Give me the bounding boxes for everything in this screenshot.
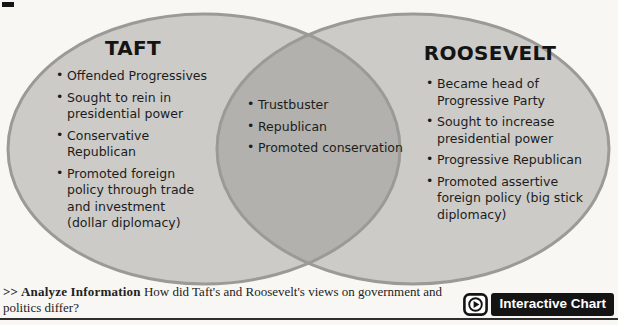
shared-list: Trustbuster Republican Promoted conserva… <box>247 97 422 162</box>
shared-item: Promoted conservation <box>247 140 422 157</box>
bottom-rule <box>0 318 618 320</box>
interactive-chart-label: Interactive Chart <box>491 293 614 316</box>
taft-item: Promoted foreign policy through trade an… <box>56 166 208 232</box>
caption-label: >> Analyze Information <box>3 284 141 299</box>
play-icon <box>463 293 488 316</box>
shared-item: Republican <box>247 119 422 136</box>
roosevelt-item: Sought to increase presidential power <box>426 114 584 147</box>
taft-list: Offended Progressives Sought to rein in … <box>56 68 208 237</box>
roosevelt-list: Became head of Progressive Party Sought … <box>426 76 584 228</box>
shared-item: Trustbuster <box>247 97 422 114</box>
analyze-information-caption: >> Analyze Information How did Taft's an… <box>3 284 475 315</box>
roosevelt-item: Promoted assertive foreign policy (big s… <box>426 174 584 224</box>
roosevelt-item: Progressive Republican <box>426 152 584 169</box>
taft-item: Offended Progressives <box>56 68 208 85</box>
taft-item: Sought to rein in presidential power <box>56 90 208 123</box>
taft-title: TAFT <box>58 36 208 60</box>
venn-diagram-page: TAFT Offended Progressives Sought to rei… <box>0 0 618 325</box>
roosevelt-title: ROOSEVELT <box>418 41 562 65</box>
taft-item: Conservative Republican <box>56 128 208 161</box>
roosevelt-item: Became head of Progressive Party <box>426 76 584 109</box>
interactive-chart-button[interactable]: Interactive Chart <box>463 293 614 316</box>
